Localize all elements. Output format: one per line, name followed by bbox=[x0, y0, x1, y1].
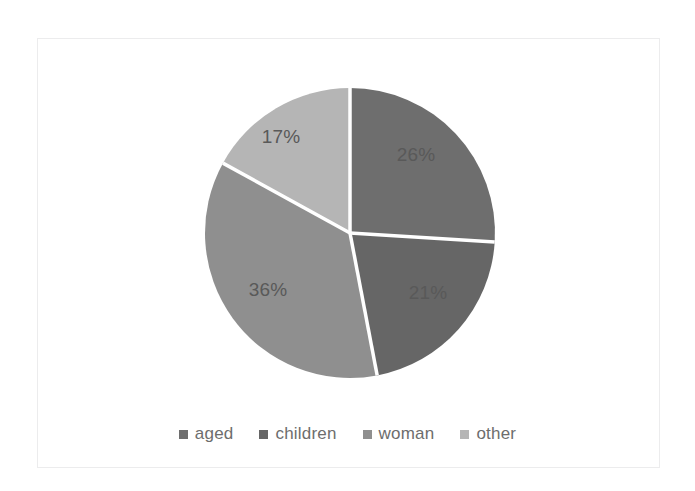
legend-swatch-icon bbox=[179, 430, 188, 439]
legend-item-label: aged bbox=[195, 424, 234, 444]
legend-item-label: woman bbox=[379, 424, 435, 444]
chart-legend: agedchildrenwomanother bbox=[0, 424, 695, 444]
pie-slice-label-woman: 36% bbox=[249, 279, 288, 301]
pie-slice-label-other: 17% bbox=[262, 126, 301, 148]
legend-item-other[interactable]: other bbox=[460, 424, 516, 444]
legend-swatch-icon bbox=[259, 430, 268, 439]
pie-slice-label-children: 21% bbox=[409, 282, 448, 304]
pie-chart bbox=[0, 0, 695, 491]
legend-item-woman[interactable]: woman bbox=[363, 424, 435, 444]
legend-swatch-icon bbox=[363, 430, 372, 439]
legend-item-children[interactable]: children bbox=[259, 424, 336, 444]
legend-item-label: children bbox=[275, 424, 336, 444]
legend-item-label: other bbox=[476, 424, 516, 444]
chart-canvas: 26%21%36%17% agedchildrenwomanother bbox=[0, 0, 695, 491]
legend-swatch-icon bbox=[460, 430, 469, 439]
pie-slice-label-aged: 26% bbox=[397, 144, 436, 166]
legend-item-aged[interactable]: aged bbox=[179, 424, 234, 444]
